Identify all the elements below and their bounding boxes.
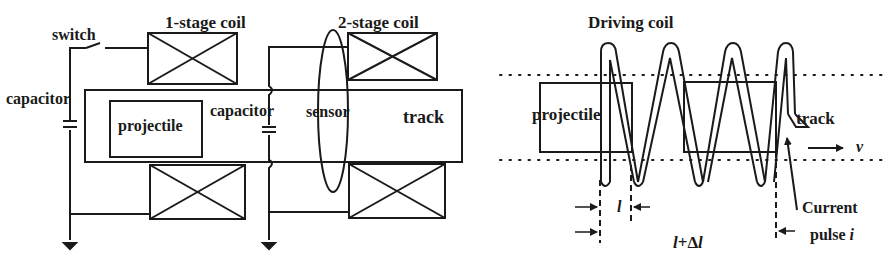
ground-mid-symbol: [263, 243, 275, 249]
label-current-symbol: i: [850, 226, 855, 243]
ground-left-symbol: [64, 243, 76, 249]
label-track-right: track: [796, 109, 835, 128]
label-projectile-right: projectile: [532, 105, 601, 124]
label-current-line2: pulse i: [810, 226, 855, 244]
label-ldl-delta: Δ: [687, 233, 698, 252]
capacitor-mid-symbol: [261, 125, 277, 135]
label-length-l-plus-delta-l: l+Δl: [673, 233, 703, 252]
label-ldl-l2: l: [698, 233, 703, 252]
label-capacitor-left: capacitor: [6, 90, 70, 108]
left-figure-circuit: [62, 30, 462, 249]
label-capacitor-mid: capacitor: [210, 102, 274, 120]
stage2-coil-bottom: [349, 164, 445, 218]
label-stage1-coil: 1-stage coil: [165, 13, 246, 32]
label-current-line1: Current: [802, 199, 858, 216]
stage1-coil-bottom: [150, 165, 245, 219]
label-projectile-left: projectile: [118, 117, 183, 135]
stage2-wiring: [269, 47, 349, 240]
label-driving-coil: Driving coil: [588, 13, 674, 32]
switch-blade: [86, 43, 100, 48]
label-ldl-plus: +: [678, 233, 688, 252]
stage1-coil-top: [148, 33, 237, 84]
label-length-l: l: [617, 198, 622, 215]
label-stage2-coil: 2-stage coil: [338, 13, 419, 32]
label-switch: switch: [52, 26, 96, 43]
label-sensor: sensor: [306, 103, 350, 120]
capacitor-left-symbol: [62, 120, 78, 130]
track-body-right: [684, 82, 776, 152]
label-track-left: track: [403, 107, 444, 127]
current-pulse-arrow: [787, 138, 797, 210]
label-current-pulse-text: pulse: [810, 226, 850, 244]
coilgun-diagram: switch 1-stage coil 2-stage coil capacit…: [0, 0, 885, 280]
label-velocity: v: [856, 138, 864, 155]
stage2-coil-top: [348, 33, 437, 80]
